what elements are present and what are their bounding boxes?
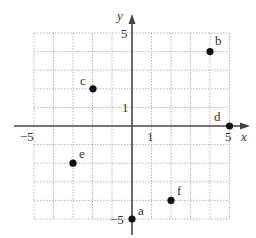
y-axis-arrow-icon [129,14,136,24]
point-label-b: b [215,33,222,48]
point-d [226,122,233,129]
point-label-d: d [214,109,221,124]
point-a [128,215,135,222]
y-tick-neg5: −5 [110,212,124,227]
point-e [69,160,76,167]
x-tick-5: 5 [225,129,232,144]
point-b [206,48,213,55]
point-c [89,85,96,92]
point-label-f: f [177,183,182,198]
y-tick-5: 5 [121,26,128,41]
x-tick-1: 1 [147,129,154,144]
y-axis-label: y [115,8,123,23]
point-label-c: c [80,73,86,88]
y-tick-1: 1 [122,100,129,115]
x-axis-label: x [240,129,247,144]
point-label-e: e [79,146,85,161]
point-label-a: a [138,203,144,218]
y-axis [129,14,136,235]
x-tick-neg5: −5 [20,129,34,144]
coordinate-plane: x y −5 1 5 5 1 −5 a b c d e f [0,0,256,238]
point-f [167,197,174,204]
